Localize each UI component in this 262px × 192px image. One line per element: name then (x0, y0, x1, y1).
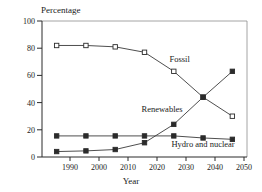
data-point-marker (113, 147, 117, 151)
data-point-marker (230, 114, 234, 118)
chart-plot-area: 0 20 40 60 80 100 1990 2000 (0, 0, 262, 192)
series-label-renewables: Renewables (142, 104, 183, 114)
y-axis: 0 20 40 60 80 100 (23, 17, 42, 162)
x-tick-label-2050: 2050 (236, 163, 252, 172)
y-axis-ticks (37, 21, 42, 157)
series-annotations: FossilRenewablesHydro and nuclear (142, 54, 235, 149)
y-tick-label-40: 40 (27, 99, 35, 108)
y-tick-label-0: 0 (31, 153, 35, 162)
x-tick-label-2000: 2000 (91, 163, 107, 172)
data-series-layer (54, 43, 234, 153)
series-label-fossil: Fossil (169, 54, 190, 64)
data-point-marker (84, 134, 88, 138)
x-axis-title: Year (0, 176, 262, 186)
y-tick-label-60: 60 (27, 71, 35, 80)
x-axis-ticks (70, 157, 244, 161)
y-tick-label-80: 80 (27, 44, 35, 53)
data-point-marker (113, 134, 117, 138)
data-point-marker (172, 134, 176, 138)
x-tick-label-2040: 2040 (207, 163, 223, 172)
y-tick-label-100: 100 (23, 17, 35, 26)
data-point-marker (84, 149, 88, 153)
data-point-marker (142, 141, 146, 145)
data-point-marker (84, 43, 88, 47)
x-axis-tick-labels: 1990 2000 2010 2020 2030 2040 2050 (62, 163, 252, 172)
x-tick-label-2030: 2030 (178, 163, 194, 172)
data-point-marker (54, 134, 58, 138)
data-point-marker (172, 69, 176, 73)
x-tick-label-1990: 1990 (62, 163, 78, 172)
y-tick-label-20: 20 (27, 126, 35, 135)
line-chart: Percentage 0 20 40 60 80 100 (0, 0, 262, 192)
data-point-marker (54, 43, 58, 47)
series-label-hydro-and-nuclear: Hydro and nuclear (171, 139, 234, 149)
data-point-marker (172, 122, 176, 126)
y-axis-tick-labels: 0 20 40 60 80 100 (23, 17, 35, 162)
data-point-marker (201, 95, 205, 99)
data-point-marker (230, 69, 234, 73)
data-point-marker (142, 50, 146, 54)
data-point-marker (142, 134, 146, 138)
x-tick-label-2010: 2010 (120, 163, 136, 172)
data-point-marker (54, 149, 58, 153)
data-point-marker (113, 45, 117, 49)
x-tick-label-2020: 2020 (149, 163, 165, 172)
x-axis: 1990 2000 2010 2020 2030 2040 2050 (42, 157, 252, 172)
